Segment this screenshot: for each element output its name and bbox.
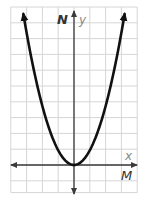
parabola-curve-right — [74, 14, 125, 165]
parabola-curve-left — [23, 14, 74, 165]
x-axis-label-M: M — [121, 168, 132, 183]
y-axis-label-y: y — [78, 13, 87, 27]
parabola-graph: N y x M — [0, 0, 143, 210]
y-axis-label-N: N — [57, 12, 68, 27]
x-axis-label-x: x — [124, 149, 133, 163]
